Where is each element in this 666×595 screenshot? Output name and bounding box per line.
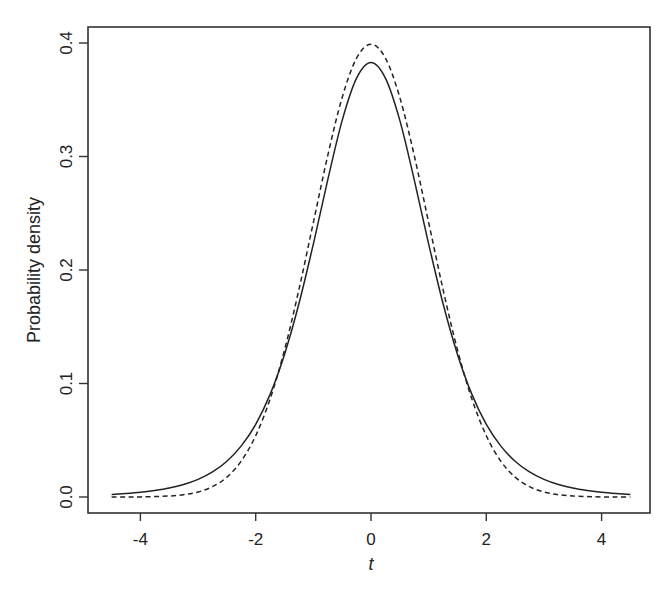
x-tick-label: 4 — [597, 530, 606, 549]
y-tick-label: 0.3 — [57, 145, 76, 169]
x-axis-title: t — [368, 554, 374, 574]
y-tick-label: 0.0 — [57, 485, 76, 509]
normal-curve-dashed — [112, 44, 631, 497]
t-curve-solid — [112, 63, 631, 495]
x-tick-label: 2 — [482, 530, 491, 549]
series-group — [112, 44, 631, 497]
x-tick-label: -2 — [248, 530, 263, 549]
y-tick-label: 0.4 — [57, 31, 76, 55]
plot-frame — [88, 27, 650, 513]
y-axis: 0.00.10.20.30.4 — [57, 31, 88, 509]
y-tick-label: 0.1 — [57, 372, 76, 396]
y-axis-title: Probability density — [24, 197, 44, 343]
y-tick-label: 0.2 — [57, 258, 76, 282]
chart-canvas: -4-2024 0.00.10.20.30.4 t Probability de… — [0, 0, 666, 595]
x-tick-label: -4 — [133, 530, 148, 549]
x-tick-label: 0 — [366, 530, 375, 549]
x-axis: -4-2024 — [133, 513, 606, 549]
